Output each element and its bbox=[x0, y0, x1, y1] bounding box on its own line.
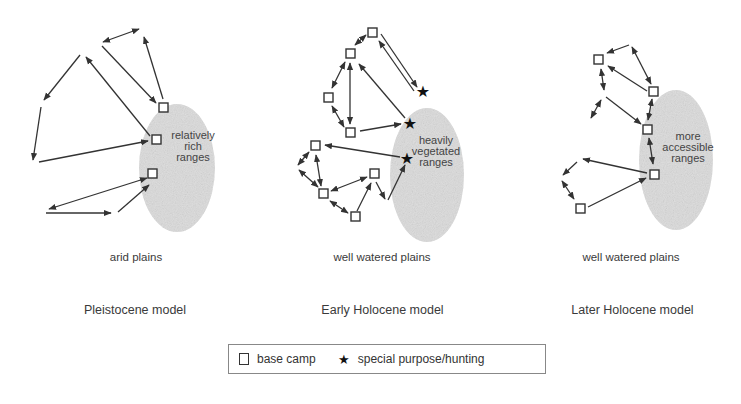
range-label-pleistocene: relatively rich ranges bbox=[163, 130, 223, 163]
range-area bbox=[390, 108, 464, 242]
base-camp-icon bbox=[319, 189, 328, 198]
range-label-line: ranges bbox=[658, 153, 718, 164]
range-label-line: ranges bbox=[163, 152, 223, 163]
range-label-line: ranges bbox=[408, 157, 464, 168]
base-camp-icon bbox=[576, 204, 585, 213]
base-camp-icon bbox=[159, 103, 168, 112]
base-camp-icon bbox=[650, 170, 659, 179]
model-label-early-holocene: Early Holocene model bbox=[300, 304, 465, 316]
base-camps bbox=[311, 28, 379, 221]
model-label-pleistocene: Pleistocene model bbox=[60, 304, 210, 316]
base-camp-icon bbox=[368, 28, 377, 37]
base-camp-icon bbox=[649, 87, 658, 96]
range-label-later-holocene: more accessible ranges bbox=[658, 131, 718, 164]
star-icon: ★ bbox=[403, 114, 417, 133]
base-camp-icon bbox=[311, 141, 320, 150]
base-camp-icon bbox=[370, 169, 379, 178]
legend-special-purpose-label: special purpose/hunting bbox=[358, 352, 485, 366]
base-camp-icon bbox=[148, 169, 157, 178]
base-camp-icon bbox=[643, 125, 652, 134]
range-area bbox=[139, 104, 215, 232]
star-icon: ★ bbox=[416, 82, 430, 101]
base-camp-icon bbox=[346, 128, 355, 137]
plains-label-later-holocene: well watered plains bbox=[566, 251, 696, 263]
base-camp-icon bbox=[346, 49, 355, 58]
base-camp-icon bbox=[324, 93, 333, 102]
model-label-later-holocene: Later Holocene model bbox=[550, 304, 715, 316]
base-camp-icon bbox=[351, 212, 360, 221]
plains-label-pleistocene: arid plains bbox=[88, 251, 184, 263]
range-label-early-holocene: heavily vegetated ranges bbox=[408, 135, 464, 168]
base-camp-icon bbox=[594, 55, 603, 64]
movement-arrows bbox=[562, 45, 653, 207]
legend: base camp ★ special purpose/hunting bbox=[228, 344, 546, 374]
base-camp-icon bbox=[152, 135, 161, 144]
square-icon bbox=[239, 353, 249, 365]
star-icon: ★ bbox=[338, 352, 350, 367]
plains-label-early-holocene: well watered plains bbox=[312, 251, 452, 263]
legend-base-camp-label: base camp bbox=[257, 352, 316, 366]
